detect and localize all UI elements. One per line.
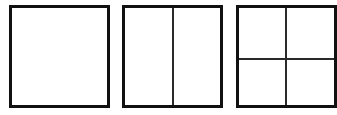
square-quarters: Square divided into four quarters — [236, 5, 337, 108]
square-quarters-label: Square divided into four quarters — [239, 8, 240, 9]
vertical-divider — [172, 8, 174, 105]
horizontal-divider — [239, 58, 334, 60]
square-whole-label: Undivided square — [12, 8, 13, 9]
square-halves-label: Square divided into two halves — [125, 8, 126, 9]
square-whole: Undivided square — [9, 5, 110, 108]
vertical-divider — [285, 8, 287, 105]
square-halves: Square divided into two halves — [122, 5, 223, 108]
